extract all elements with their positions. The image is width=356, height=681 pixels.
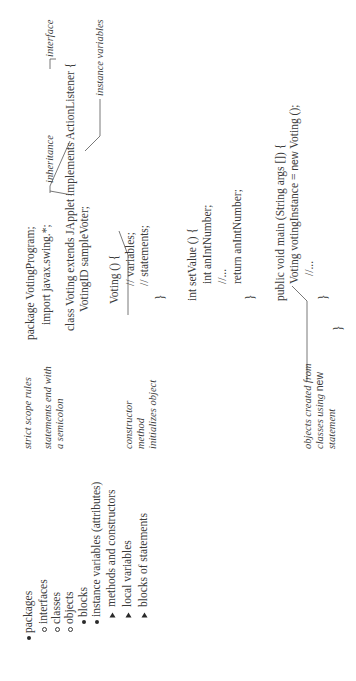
annotation-objects-created: objects created from (302, 363, 314, 449)
code-line-return: return anIntNumber; (231, 189, 244, 284)
annotation-semicolon: a semicolon (54, 399, 66, 449)
bullet-triangle-icon (109, 613, 115, 618)
code-line-class: class Voting extends JApplet implements … (64, 63, 77, 331)
bullet-triangle-icon (125, 613, 131, 618)
annotation-instance-variables: instance variables (94, 19, 106, 96)
annotation-constructor: constructor (123, 401, 135, 449)
code-line-comment-ellipsis-main: //... (303, 261, 316, 276)
code-line-instantiation: Voting votingInstance = new Voting (); (288, 105, 301, 284)
code-line-comment-variables: // variables; (124, 232, 137, 286)
code-line-comment-statements: // statements; (138, 225, 151, 286)
bullet-dot-icon (82, 620, 86, 624)
code-line-setvalue: int setValue () { (186, 228, 199, 301)
annotation-interface: interface (44, 20, 56, 57)
annotation-statements-end: statements end with (42, 366, 54, 449)
bullet-dot-icon (95, 620, 99, 624)
code-line-int-declaration: int anIntNumber; (201, 204, 214, 284)
annotation-strict-scope: strict scope rules (22, 377, 34, 449)
outline-item-methods-constructors: methods and constructors (105, 489, 118, 618)
bullet-circle-icon (68, 627, 73, 632)
outline-item-blocks-of-statements: blocks of statements (137, 513, 150, 618)
code-line-close-class: } (332, 325, 345, 331)
interface-leader (50, 59, 56, 69)
bullet-circle-icon (42, 627, 47, 632)
outline-item-local-variables: local variables (121, 540, 134, 618)
leader-lines (0, 0, 356, 681)
outline-item-interfaces: interfaces (37, 579, 50, 632)
bullet-triangle-icon (141, 613, 147, 618)
annotation-inheritance: inheritance (44, 135, 56, 183)
outline-item-blocks: blocks (77, 587, 90, 624)
bullet-dot-icon (27, 636, 31, 640)
code-line-constructor: Voting () { (108, 255, 121, 304)
code-line-comment-ellipsis: //... (216, 269, 229, 284)
rotated-page: packages interfaces classes objects bloc… (0, 0, 356, 681)
outline-item-objects: objects (63, 591, 76, 632)
annotation-initializes-object: initializes object (147, 380, 159, 449)
code-line-close-setvalue: } (244, 294, 257, 300)
annotation-classes-using-new: classes using new (314, 372, 326, 449)
code-line-close-main: } (317, 294, 330, 300)
code-line-instance-var: VotingID sampleVoter; (78, 206, 91, 312)
outline-item-instance-variables: instance variables (attributes) (90, 482, 103, 624)
outline-item-classes: classes (50, 592, 63, 632)
annotation-statement: statement (326, 409, 338, 449)
annotation-method: method (135, 418, 147, 449)
instance-variables-leader (85, 99, 100, 151)
code-line-main: public void main (String args []) { (274, 144, 287, 301)
code-line-import: import javax.swing.*; (40, 224, 53, 325)
code-line-package: package VotingProgram; (24, 226, 37, 340)
bullet-circle-icon (55, 627, 60, 632)
code-line-close-constructor: } (154, 294, 167, 300)
outline-item-packages: packages (22, 591, 35, 640)
